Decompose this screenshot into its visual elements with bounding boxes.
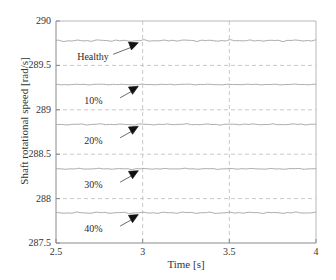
annotation-label-10pct: 10% [84, 95, 102, 106]
annotation-label-30pct: 30% [84, 179, 102, 190]
chart-figure: Shaft rotational speed [rad/s] Time [s] … [0, 0, 336, 280]
y-tick-label: 288.5 [11, 148, 51, 159]
x-tick-label: 3.5 [209, 246, 249, 257]
series-line-20pct [56, 124, 316, 125]
y-tick-label: 288 [11, 193, 51, 204]
annotation-arrowhead [128, 86, 138, 94]
annotation-label-healthy: Healthy [77, 51, 109, 62]
annotation-label-40pct: 40% [84, 223, 102, 234]
annotation-arrowhead [128, 126, 138, 134]
series-line-healthy [56, 40, 316, 42]
x-tick-label: 3 [123, 246, 163, 257]
y-tick-label: 290 [11, 15, 51, 26]
annotation-arrowhead [128, 42, 138, 50]
series-line-10pct [56, 84, 316, 85]
annotation-arrowhead [128, 215, 138, 223]
x-tick-label: 2.5 [36, 246, 76, 257]
x-tick-label: 4 [296, 246, 336, 257]
y-tick-label: 289.5 [11, 59, 51, 70]
series-line-30pct [56, 168, 316, 169]
series-line-40pct [56, 212, 316, 214]
annotation-arrowhead [128, 171, 138, 179]
annotation-label-20pct: 20% [84, 135, 102, 146]
y-tick-label: 289 [11, 104, 51, 115]
